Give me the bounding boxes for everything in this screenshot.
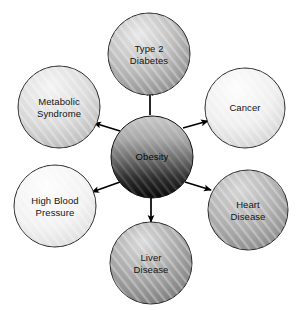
node-liver-disease[interactable]: [110, 222, 192, 304]
node-metabolic-syndrome[interactable]: [18, 66, 100, 148]
diagram-canvas: Type 2 Diabetes Cancer Heart Disease Liv…: [0, 0, 301, 310]
arrow-to-heart-disease: [185, 182, 211, 190]
arrow-to-metabolic-syndrome: [94, 123, 120, 131]
diagram-svg: [0, 0, 301, 310]
arrow-to-high-blood-pressure: [92, 182, 120, 192]
node-cancer[interactable]: [205, 68, 285, 148]
node-heart-disease[interactable]: [208, 170, 288, 250]
node-obesity[interactable]: [111, 116, 193, 198]
node-type-2-diabetes[interactable]: [108, 13, 190, 95]
node-high-blood-pressure[interactable]: [14, 165, 96, 247]
arrow-to-cancer: [183, 121, 208, 128]
